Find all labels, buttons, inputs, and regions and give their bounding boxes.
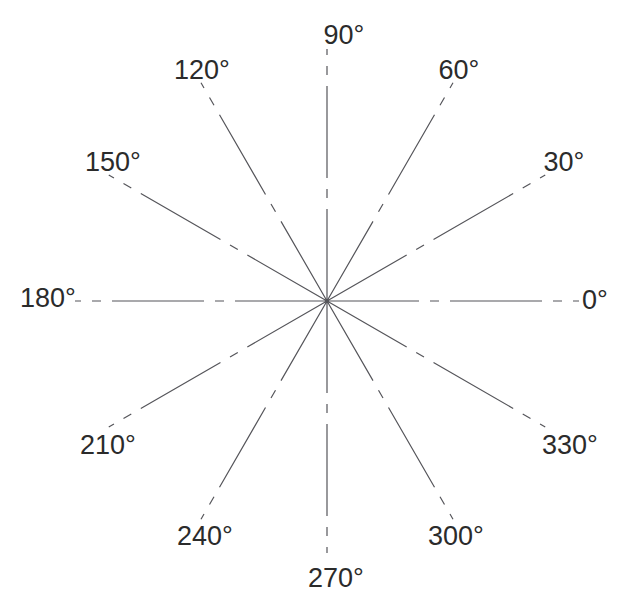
angle-label-330: 330° (542, 432, 598, 459)
angle-label-180: 180° (20, 285, 76, 312)
spoke-line-30 (327, 175, 545, 301)
angle-label-270: 270° (308, 565, 364, 592)
spoke-line-330 (327, 301, 545, 427)
angle-label-240: 240° (177, 523, 233, 550)
spoke-line-210 (109, 301, 327, 427)
angle-label-150: 150° (85, 149, 141, 176)
spoke-line-240 (201, 301, 327, 519)
polar-diagram-canvas: 0°30°60°90°120°150°180°210°240°270°300°3… (0, 0, 622, 605)
spoke-line-300 (327, 301, 453, 519)
angle-label-30: 30° (544, 149, 585, 176)
angle-label-210: 210° (80, 432, 136, 459)
angle-label-60: 60° (439, 57, 480, 84)
spoke-line-120 (201, 83, 327, 301)
angle-label-0: 0° (582, 287, 608, 314)
angle-label-90: 90° (324, 22, 365, 49)
spoke-line-60 (327, 83, 453, 301)
spoke-line-150 (109, 175, 327, 301)
angle-label-300: 300° (428, 523, 484, 550)
polar-center-point (325, 299, 329, 303)
angle-label-120: 120° (174, 57, 230, 84)
polar-spokes-svg (0, 0, 622, 605)
